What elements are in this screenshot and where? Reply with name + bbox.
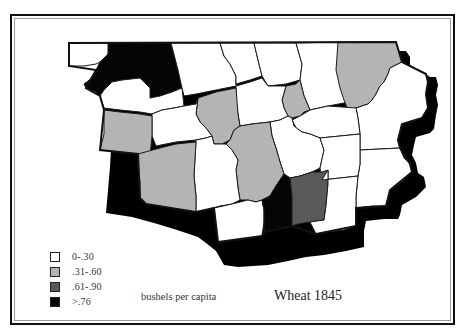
legend-swatch-class-3 [50, 297, 60, 307]
legend-swatch-class-2 [50, 282, 60, 292]
legend-item: .61-.90 [50, 279, 102, 294]
map-legend: 0-.30 .31-.60 .61-.90 >.76 [50, 249, 102, 309]
county [290, 170, 328, 226]
county [100, 110, 152, 156]
county [138, 142, 196, 212]
legend-label: >.76 [72, 296, 91, 307]
legend-swatch-class-0 [50, 252, 60, 262]
legend-label: .31-.60 [72, 266, 102, 277]
legend-item: .31-.60 [50, 264, 102, 279]
legend-item: >.76 [50, 294, 102, 309]
legend-item: 0-.30 [50, 249, 102, 264]
county [214, 200, 264, 242]
map-title: Wheat 1845 [274, 288, 342, 304]
legend-label: 0-.30 [72, 251, 94, 262]
legend-label: .61-.90 [72, 281, 102, 292]
units-label: bushels per capita [141, 291, 216, 302]
legend-swatch-class-1 [50, 267, 60, 277]
